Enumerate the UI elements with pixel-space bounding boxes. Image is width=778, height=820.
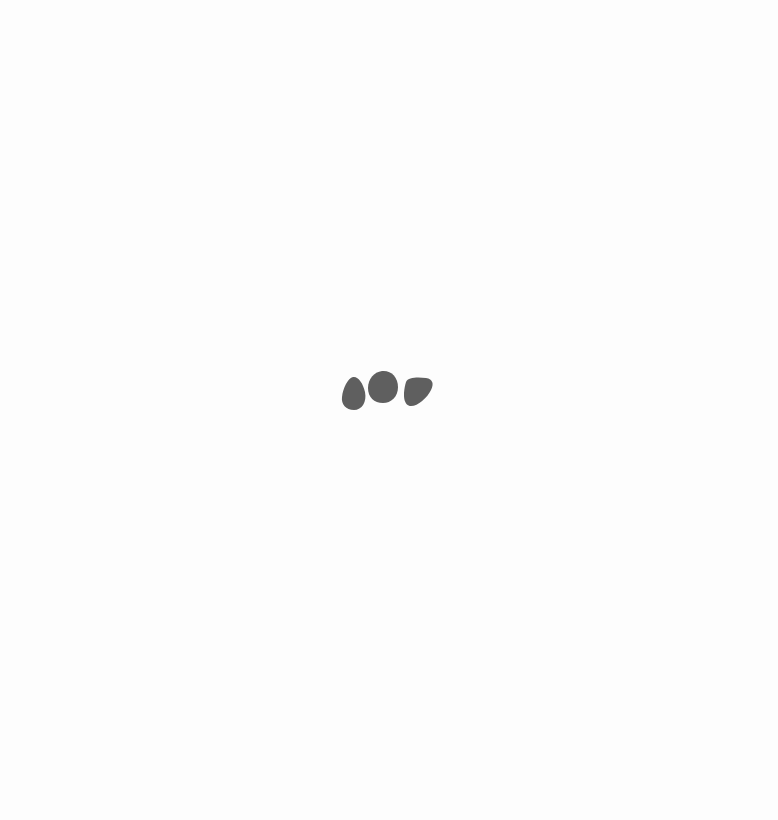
loading-indicator: Loading [338,366,438,414]
loading-dot-3 [404,377,433,406]
loading-dot-2 [368,371,398,403]
loading-dot-1 [342,377,366,410]
loading-dots-icon [338,366,438,414]
loading-screen: Loading [0,0,778,820]
loading-label: Loading [338,414,339,415]
